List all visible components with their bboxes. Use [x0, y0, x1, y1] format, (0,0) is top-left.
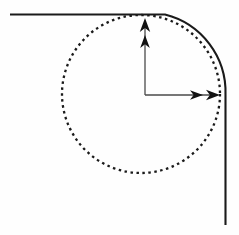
figure-canvas: Rounded corner with inscribed dashed cir…: [0, 0, 239, 235]
geometry-diagram: Rounded corner with inscribed dashed cir…: [0, 0, 239, 235]
